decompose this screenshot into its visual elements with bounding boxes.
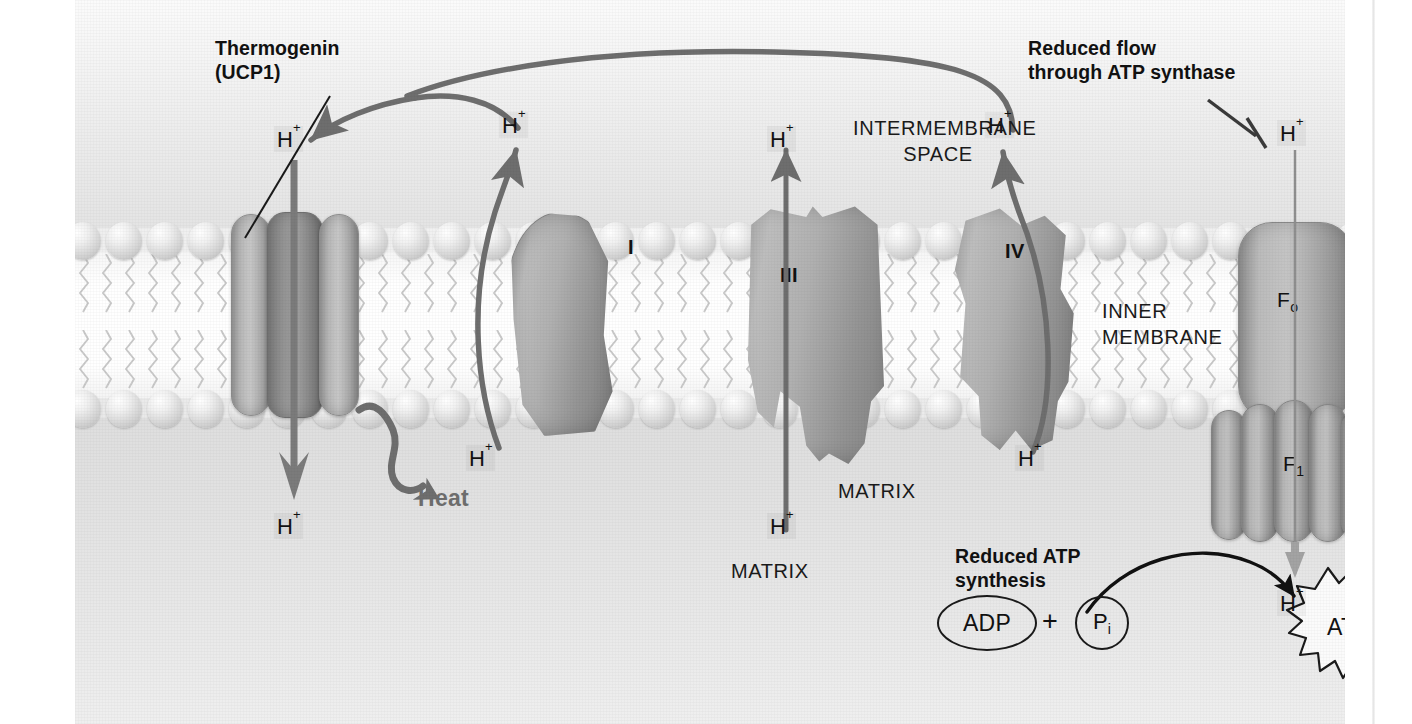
- lipid-tail: [424, 254, 435, 314]
- lipid-tail: [148, 330, 159, 390]
- complex-I-protein[interactable]: [507, 212, 617, 436]
- phospholipid-head: [393, 390, 429, 428]
- atp-label: ATP: [1289, 570, 1345, 684]
- proton-label-thermogenin-top: H+: [274, 126, 303, 152]
- proton-label-complex-I-matrix: H+: [466, 445, 495, 471]
- lipid-tail: [700, 254, 711, 314]
- lipid-tail: [378, 330, 389, 390]
- adp-label: ADP: [963, 610, 1011, 637]
- lipid-tail: [723, 330, 734, 390]
- lipid-tail: [631, 330, 642, 390]
- figure-canvas: I III IV Fo F1: [0, 0, 1412, 724]
- phospholipid-head: [106, 222, 142, 260]
- lipid-tail: [654, 254, 665, 314]
- phospholipid-head: [434, 222, 470, 260]
- phospholipid-head: [1172, 222, 1208, 260]
- proton-label-complex-I-top: H+: [499, 112, 528, 138]
- lipid-tail: [631, 254, 642, 314]
- intermembrane-space-background: [75, 0, 1345, 228]
- lipid-tail: [884, 254, 895, 314]
- atp-molecule: ATP: [1287, 566, 1345, 680]
- lipid-tail: [907, 330, 918, 390]
- lipid-tail: [493, 330, 504, 390]
- proton-label-thermogenin-matrix: H+: [274, 513, 303, 539]
- atp-synthase-f1-lobe-5: [1341, 410, 1345, 540]
- lipid-tail: [1091, 330, 1102, 390]
- lipid-tail: [470, 330, 481, 390]
- lipid-tail: [1068, 254, 1079, 314]
- lipid-tail: [378, 254, 389, 314]
- phospholipid-head: [147, 390, 183, 428]
- thermogenin-callout-label: Thermogenin (UCP1): [215, 37, 340, 85]
- phospholipid-head: [475, 222, 511, 260]
- atp-synthase-fo-label: Fo: [1277, 288, 1299, 315]
- phospholipid-head: [75, 222, 101, 260]
- phospholipid-head: [680, 390, 716, 428]
- phospholipid-head: [639, 390, 675, 428]
- proton-label-complex-III-matrix: H+: [767, 513, 796, 539]
- phosphate-molecule: Pi: [1075, 596, 1129, 650]
- lipid-tail: [884, 330, 895, 390]
- matrix-label-lower: MATRIX: [731, 558, 809, 584]
- phospholipid-head: [1172, 390, 1208, 428]
- lipid-tail: [217, 254, 228, 314]
- lipid-tail: [79, 330, 90, 390]
- proton-label-complex-IV-matrix: H+: [1015, 445, 1044, 471]
- lipid-tail: [677, 330, 688, 390]
- lipid-tail: [194, 330, 205, 390]
- atp-synthase-fo-subunit: [1238, 222, 1345, 420]
- lipid-tail: [171, 330, 182, 390]
- illustration-panel: I III IV Fo F1: [75, 0, 1345, 724]
- lipid-tail: [401, 254, 412, 314]
- lipid-tail: [930, 254, 941, 314]
- phospholipid-head: [639, 222, 675, 260]
- inner-membrane-label: INNER MEMBRANE: [1102, 298, 1222, 350]
- matrix-background: [75, 418, 1345, 724]
- thermogenin-lobe-center: [267, 212, 323, 418]
- proton-label-complex-III-top: H+: [767, 126, 796, 152]
- atp-synthase-f1-label: F1: [1283, 452, 1305, 479]
- phospholipid-head: [393, 222, 429, 260]
- reduced-atp-synthesis-callout-label: Reduced ATP synthesis: [955, 545, 1081, 593]
- complex-I-label: I: [628, 236, 634, 259]
- phospholipid-head: [1090, 222, 1126, 260]
- lipid-tail: [447, 254, 458, 314]
- lipid-tail: [907, 254, 918, 314]
- phospholipid-head: [926, 390, 962, 428]
- lipid-tail: [493, 254, 504, 314]
- phospholipid-head: [106, 390, 142, 428]
- lipid-tail: [401, 330, 412, 390]
- phospholipid-head: [926, 222, 962, 260]
- lipid-tail: [654, 330, 665, 390]
- lipid-tail: [700, 330, 711, 390]
- lipid-tail: [79, 254, 90, 314]
- thermogenin-lobe-right: [319, 214, 359, 416]
- lipid-tail: [930, 330, 941, 390]
- phospholipid-head: [680, 222, 716, 260]
- thermogenin-lobe-left: [231, 214, 271, 416]
- plus-sign: +: [1042, 606, 1058, 637]
- atp-synthase-f1-lobe-4: [1309, 404, 1345, 542]
- proton-label-atp-synthase-top: H+: [1277, 120, 1306, 146]
- lipid-tail: [470, 254, 481, 314]
- lipid-tail: [125, 330, 136, 390]
- adp-molecule: ADP: [937, 595, 1037, 651]
- lipid-tail: [125, 254, 136, 314]
- phospholipid-head: [475, 390, 511, 428]
- phospholipid-head: [1090, 390, 1126, 428]
- complex-III-label: III: [780, 264, 798, 287]
- lipid-tail: [1091, 254, 1102, 314]
- phospholipid-head: [721, 390, 757, 428]
- heat-label: Heat: [418, 485, 469, 512]
- lipid-tail: [447, 330, 458, 390]
- complex-IV-label: IV: [1005, 240, 1025, 263]
- phosphate-label: Pi: [1093, 609, 1111, 637]
- reduced-flow-callout-label: Reduced flow through ATP synthase: [1028, 37, 1236, 85]
- lipid-tail: [194, 254, 205, 314]
- lipid-tail: [424, 330, 435, 390]
- phospholipid-head: [1131, 222, 1167, 260]
- lipid-tail: [102, 254, 113, 314]
- phospholipid-head: [188, 222, 224, 260]
- lipid-tail: [723, 254, 734, 314]
- phospholipid-head: [885, 222, 921, 260]
